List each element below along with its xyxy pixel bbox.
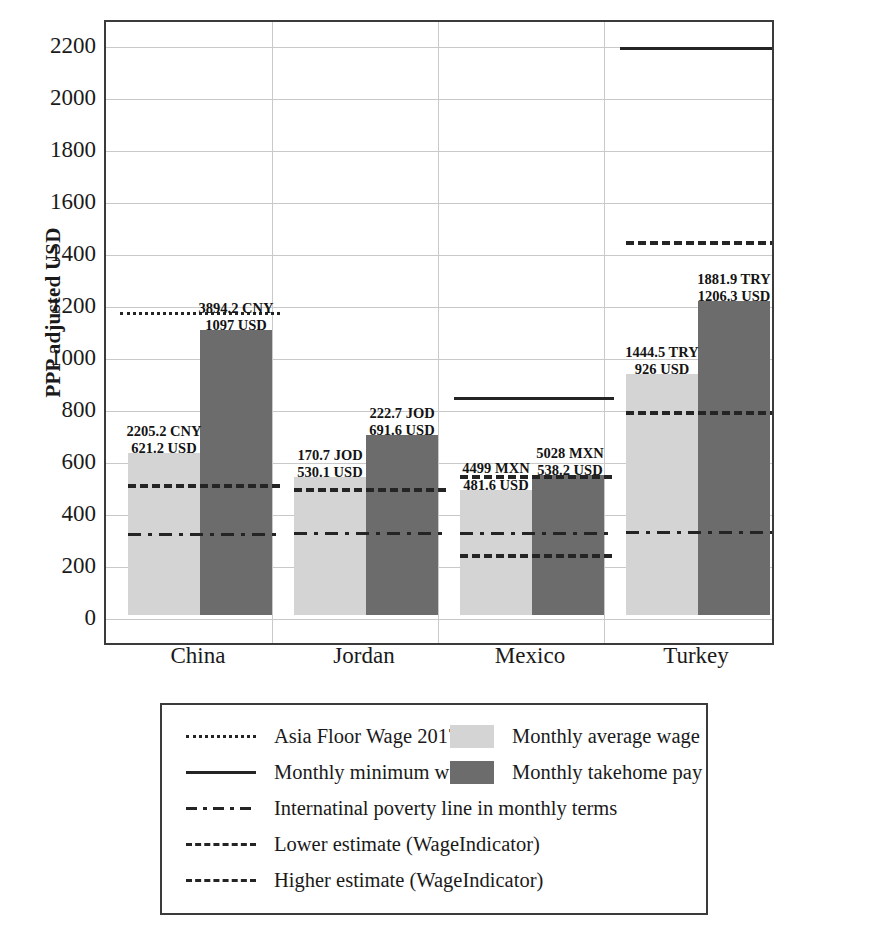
- bar-jordan-average-wage: [294, 477, 366, 615]
- legend-label: Higher estimate (WageIndicator): [274, 869, 543, 892]
- y-tick-1200: 1200: [8, 294, 96, 317]
- chart-figure: PPP adjusted USD 2200 2000 1800 1600 140…: [0, 0, 871, 943]
- refline-mexico-poverty-line: [460, 532, 612, 535]
- barlabel-jordan-takehome-pay: 222.7 JOD 691.6 USD: [354, 405, 450, 438]
- bar-china-takehome-pay: [200, 330, 272, 615]
- gridline-1800: [106, 151, 772, 152]
- refline-turkey-minimum-wage: [620, 47, 774, 50]
- bar-mexico-takehome-pay: [532, 475, 604, 615]
- dotted-line-icon: [184, 726, 258, 746]
- legend-item-asia-floor-wage: Asia Floor Wage 2017: [184, 719, 458, 753]
- barlabel-line-1: 222.7 JOD: [354, 405, 450, 422]
- refline-jordan-poverty-line: [294, 532, 446, 535]
- refline-turkey-higher-estimate: [626, 411, 774, 415]
- y-tick-1000: 1000: [8, 346, 96, 369]
- y-tick-200: 200: [8, 554, 96, 577]
- barlabel-line-2: 691.6 USD: [354, 422, 450, 439]
- barlabel-line-2: 1206.3 USD: [684, 288, 774, 305]
- refline-mexico-minimum-wage: [454, 397, 614, 400]
- barlabel-line-2: 530.1 USD: [284, 464, 376, 481]
- y-tick-2200: 2200: [8, 34, 96, 57]
- barlabel-line-1: 170.7 JOD: [284, 447, 376, 464]
- legend-label: Internatinal poverty line in monthly ter…: [274, 797, 617, 820]
- legend-item-average-wage: Monthly average wage: [450, 719, 700, 753]
- dark-gray-swatch-icon: [450, 761, 494, 784]
- x-tick-turkey: Turkey: [663, 643, 729, 669]
- y-tick-400: 400: [8, 502, 96, 525]
- legend-label: Lower estimate (WageIndicator): [274, 833, 540, 856]
- legend-item-poverty-line: Internatinal poverty line in monthly ter…: [184, 791, 617, 825]
- legend-label: Asia Floor Wage 2017: [274, 725, 458, 748]
- barlabel-line-1: 5028 MXN: [524, 445, 616, 462]
- y-tick-2000: 2000: [8, 86, 96, 109]
- y-axis-tick-labels: 2200 2000 1800 1600 1400 1200 1000 800 6…: [0, 0, 96, 943]
- y-tick-800: 800: [8, 398, 96, 421]
- light-gray-swatch-icon: [450, 725, 494, 748]
- barlabel-china-average-wage: 2205.2 CNY 621.2 USD: [116, 423, 212, 456]
- dashed-line-icon: [184, 834, 258, 854]
- plot-area: 2205.2 CNY 621.2 USD 3894.2 CNY 1097 USD…: [104, 20, 774, 645]
- barlabel-line-2: 621.2 USD: [116, 440, 212, 457]
- gridline-0: [106, 619, 772, 620]
- x-tick-china: China: [171, 643, 226, 669]
- y-tick-0: 0: [8, 606, 96, 629]
- barlabel-line-2: 538.2 USD: [524, 462, 616, 479]
- vgridline-3: [604, 22, 605, 643]
- refline-mexico-lower-estimate: [460, 554, 612, 558]
- barlabel-line-2: 926 USD: [614, 361, 710, 378]
- legend-label: Monthly minimum wage: [274, 761, 478, 784]
- refline-turkey-poverty-line: [626, 531, 774, 534]
- legend-label: Monthly takehome pay: [512, 761, 702, 784]
- barlabel-line-2: 1097 USD: [186, 317, 286, 334]
- refline-jordan-higher-estimate: [294, 488, 446, 492]
- barlabel-line-1: 1881.9 TRY: [684, 271, 774, 288]
- vgridline-2: [438, 22, 439, 643]
- y-tick-1400: 1400: [8, 242, 96, 265]
- bar-jordan-takehome-pay: [366, 435, 438, 615]
- barlabel-line-1: 2205.2 CNY: [116, 423, 212, 440]
- barlabel-mexico-takehome-pay: 5028 MXN 538.2 USD: [524, 445, 616, 478]
- y-tick-1600: 1600: [8, 190, 96, 213]
- gridline-1600: [106, 203, 772, 204]
- barlabel-line-1: 1444.5 TRY: [614, 344, 710, 361]
- y-tick-600: 600: [8, 450, 96, 473]
- x-tick-mexico: Mexico: [495, 643, 565, 669]
- refline-turkey-higher-estimate-upper: [626, 241, 774, 245]
- barlabel-line-2: 481.6 USD: [450, 477, 542, 494]
- refline-china-poverty-line: [128, 533, 280, 536]
- barlabel-jordan-average-wage: 170.7 JOD 530.1 USD: [284, 447, 376, 480]
- barlabel-china-takehome-pay: 3894.2 CNY 1097 USD: [186, 300, 286, 333]
- barlabel-line-1: 3894.2 CNY: [186, 300, 286, 317]
- dashed-line-icon: [184, 870, 258, 890]
- y-tick-1800: 1800: [8, 138, 96, 161]
- dashdot-line-icon: [184, 798, 258, 818]
- legend-item-minimum-wage: Monthly minimum wage: [184, 755, 478, 789]
- gridline-2000: [106, 99, 772, 100]
- barlabel-turkey-average-wage: 1444.5 TRY 926 USD: [614, 344, 710, 377]
- legend-item-lower-estimate: Lower estimate (WageIndicator): [184, 827, 540, 861]
- refline-china-higher-estimate: [128, 484, 280, 488]
- bar-mexico-average-wage: [460, 490, 532, 615]
- legend-item-higher-estimate: Higher estimate (WageIndicator): [184, 863, 543, 897]
- solid-line-icon: [184, 762, 258, 782]
- legend-item-takehome-pay: Monthly takehome pay: [450, 755, 702, 789]
- barlabel-turkey-takehome-pay: 1881.9 TRY 1206.3 USD: [684, 271, 774, 304]
- legend-label: Monthly average wage: [512, 725, 700, 748]
- x-tick-jordan: Jordan: [333, 643, 394, 669]
- chart-legend: Asia Floor Wage 2017 Monthly minimum wag…: [160, 703, 708, 915]
- gridline-1400: [106, 255, 772, 256]
